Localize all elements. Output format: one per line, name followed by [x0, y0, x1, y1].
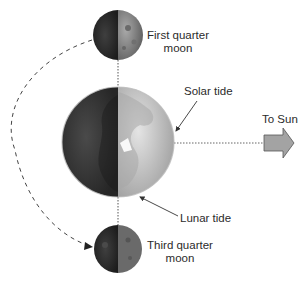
lunar-tide-label: Lunar tide	[180, 212, 231, 225]
solar-tide-label: Solar tide	[184, 85, 233, 98]
third-quarter-label-line1: Third quarter	[143, 239, 217, 252]
sun-direction-arrow-icon	[264, 128, 294, 158]
first-quarter-label-line1: First quarter	[144, 29, 212, 42]
solar-tide-pointer	[176, 101, 197, 131]
earth	[60, 85, 176, 200]
orbit-arrow-icon	[84, 242, 93, 250]
first-quarter-label-line2: moon	[144, 42, 212, 55]
first-quarter-moon	[92, 9, 144, 61]
third-quarter-label-line2: moon	[143, 252, 217, 265]
first-quarter-moon-label: First quarter moon	[144, 29, 212, 55]
to-sun-label: To Sun	[262, 113, 298, 126]
third-quarter-moon-label: Third quarter moon	[143, 239, 217, 265]
third-quarter-moon	[93, 224, 143, 274]
lunar-tide-pointer	[140, 197, 178, 216]
